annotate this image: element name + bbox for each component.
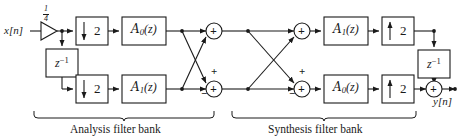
adder-analysis-bottom-minus-label: − bbox=[201, 88, 207, 99]
adder-output-sign: + bbox=[430, 83, 437, 95]
junction-upsampler-top-out bbox=[432, 29, 436, 33]
filter-a1-synthesis-label: A1(z) bbox=[333, 23, 359, 37]
delay-analysis-label: z−1 bbox=[55, 56, 69, 69]
adder-synthesis-bottom-minus-label: − bbox=[289, 88, 295, 99]
delay-synthesis-label: z−1 bbox=[427, 57, 441, 70]
analysis-brace-icon bbox=[34, 111, 214, 121]
filter-a1-synthesis-arg: (z) bbox=[346, 22, 359, 36]
synthesis-section-label: Synthesis filter bank bbox=[268, 124, 363, 136]
filter-a1-synthesis-name: A bbox=[333, 22, 342, 36]
wire-syn-cross-bottom-up bbox=[248, 37, 294, 89]
adder-synthesis-bottom-plus-label: + bbox=[299, 66, 305, 77]
gain-triangle-icon bbox=[41, 22, 57, 40]
upsampler-top-factor: 2 bbox=[400, 24, 407, 37]
adder-synthesis-bottom-sign: + bbox=[298, 83, 305, 95]
filter-a1-analysis-arg: (z) bbox=[144, 80, 157, 94]
wire-cross-top-to-bottom-adder bbox=[182, 31, 206, 83]
downsampler-bottom-factor: 2 bbox=[94, 82, 101, 95]
output-signal-label: y[n] bbox=[433, 96, 452, 107]
adder-synthesis-top-sign: + bbox=[298, 25, 305, 37]
input-signal-label: x[n] bbox=[4, 25, 23, 36]
adder-analysis-bottom-plus-label: + bbox=[211, 66, 217, 77]
synthesis-brace-icon bbox=[232, 111, 416, 121]
wire-syn-cross-top-down bbox=[248, 31, 294, 83]
diagram-canvas bbox=[0, 0, 459, 140]
junction-input-split bbox=[60, 29, 64, 33]
filter-a1-analysis-name: A bbox=[131, 80, 140, 94]
filter-a0-analysis-name: A bbox=[131, 22, 140, 36]
gain-value-label: 1 4 bbox=[43, 5, 49, 23]
filter-a0-analysis-label: A0(z) bbox=[131, 23, 157, 37]
junction-analysis-bottom bbox=[180, 87, 184, 91]
filter-a0-analysis-arg: (z) bbox=[144, 22, 157, 36]
wire-cross-bottom-to-top-adder bbox=[182, 37, 206, 89]
adder-analysis-bottom-sign: + bbox=[210, 83, 217, 95]
adder-analysis-top-sign: + bbox=[210, 25, 217, 37]
filter-a0-synthesis-arg: (z) bbox=[346, 80, 359, 94]
junction-synthesis-bottom bbox=[246, 87, 250, 91]
analysis-section-label: Analysis filter bank bbox=[70, 124, 161, 136]
filter-bank-diagram: x[n] 1 4 2 2 A0(z) A1(z) z−1 + + + − + +… bbox=[0, 0, 459, 140]
filter-a1-analysis-label: A1(z) bbox=[131, 81, 157, 95]
junction-analysis-top bbox=[180, 29, 184, 33]
downsampler-top-box bbox=[76, 17, 108, 45]
upsampler-bottom-factor: 2 bbox=[400, 82, 407, 95]
upsampler-top-box bbox=[382, 17, 414, 45]
downsampler-bottom-box bbox=[76, 75, 108, 103]
upsampler-bottom-box bbox=[382, 75, 414, 103]
delay-synthesis-exp: −1 bbox=[432, 56, 441, 66]
junction-output bbox=[453, 87, 457, 91]
downsampler-top-factor: 2 bbox=[94, 24, 101, 37]
gain-denominator: 4 bbox=[43, 15, 49, 23]
filter-a0-synthesis-label: A0(z) bbox=[333, 81, 359, 95]
delay-analysis-exp: −1 bbox=[60, 55, 69, 65]
junction-synthesis-top bbox=[246, 29, 250, 33]
filter-a0-synthesis-name: A bbox=[333, 80, 342, 94]
